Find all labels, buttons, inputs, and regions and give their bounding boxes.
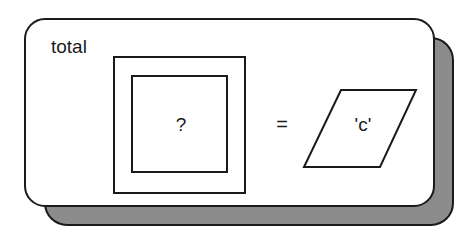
char-value-label: 'c' — [355, 114, 372, 135]
unknown-value-symbol: ? — [176, 114, 187, 135]
variable-diagram: total ? = 'c' — [0, 0, 473, 233]
variable-name-label: total — [51, 36, 87, 57]
equals-operator: = — [276, 113, 288, 135]
